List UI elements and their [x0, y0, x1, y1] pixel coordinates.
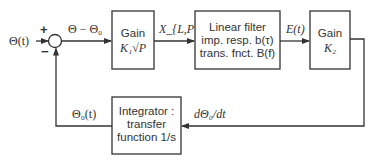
error-label: Θ − Θ₀ — [68, 22, 102, 36]
integrator-output-label: Θ₀(t) — [72, 107, 96, 121]
svg-text:Gain: Gain — [121, 27, 145, 39]
svg-text:Linear filter: Linear filter — [209, 21, 266, 33]
svg-text:Gain: Gain — [318, 27, 342, 39]
integrator-block: Integrator : transfer function 1/s — [112, 97, 181, 154]
svg-text:transfer: transfer — [127, 118, 166, 130]
gain1-block: Gain K₁√P — [112, 11, 154, 69]
svg-text:K₂: K₂ — [323, 41, 336, 55]
svg-text:K₁√P: K₁√P — [119, 41, 147, 55]
filter-output-label: E(t) — [285, 22, 305, 36]
minus-sign: − — [41, 44, 49, 59]
plus-sign: + — [40, 22, 48, 37]
svg-text:trans. fnct. B(f): trans. fnct. B(f) — [200, 47, 276, 59]
gain2-block: Gain K₂ — [310, 11, 350, 69]
gain2-output-label: dΘ₀/dt — [194, 107, 226, 121]
svg-text:imp. resp. b(τ): imp. resp. b(τ) — [201, 34, 273, 46]
linear-filter-block: Linear filter imp. resp. b(τ) trans. fnc… — [195, 11, 280, 69]
svg-text:function 1/s: function 1/s — [117, 131, 176, 143]
input-label: Θ(t) — [9, 34, 29, 48]
svg-text:Integrator :: Integrator : — [119, 105, 175, 117]
phase-locked-loop-diagram: Θ(t) + − Θ − Θ₀ Gain K₁√P X_{L,P}(t) Lin… — [0, 0, 378, 166]
